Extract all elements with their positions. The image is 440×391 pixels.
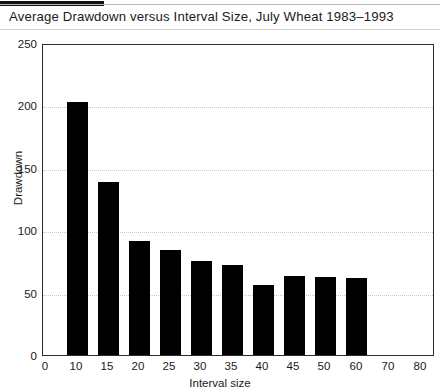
x-tick-label: 45 [287, 360, 300, 372]
title-underline [0, 29, 440, 30]
x-tick-label: 25 [163, 360, 176, 372]
x-tick-label: 0 [42, 360, 48, 372]
x-axis: 0 10 15 20 25 30 35 40 45 50 60 70 80 [0, 360, 440, 376]
bar-series [43, 45, 433, 355]
x-tick-label: 15 [101, 360, 114, 372]
y-axis-title: Drawdown [12, 133, 24, 223]
bar-30 [222, 265, 243, 355]
x-tick-label: 70 [382, 360, 395, 372]
y-tick-label: 250 [18, 38, 37, 50]
bar-35 [253, 285, 274, 355]
y-tick-label: 100 [18, 225, 37, 237]
bar-50 [346, 278, 367, 355]
x-tick-label: 50 [318, 360, 331, 372]
y-tick-label: 200 [18, 100, 37, 112]
x-tick-label: 10 [70, 360, 83, 372]
chart-title: Average Drawdown versus Interval Size, J… [9, 9, 394, 24]
header-rule [0, 4, 440, 5]
y-tick-label: 50 [24, 288, 37, 300]
bar-5 [67, 102, 88, 355]
bar-45 [315, 277, 336, 355]
bar-15 [129, 241, 150, 355]
x-tick-label: 30 [194, 360, 207, 372]
plot-area [42, 44, 434, 356]
bar-20 [160, 250, 181, 355]
bar-25 [191, 261, 212, 355]
x-tick-label: 35 [225, 360, 238, 372]
x-tick-label: 40 [256, 360, 269, 372]
x-axis-title: Interval size [0, 377, 440, 389]
x-tick-label: 80 [414, 360, 427, 372]
x-tick-label: 60 [350, 360, 363, 372]
bar-40 [284, 276, 305, 355]
x-tick-label: 20 [132, 360, 145, 372]
bar-10 [98, 182, 119, 355]
